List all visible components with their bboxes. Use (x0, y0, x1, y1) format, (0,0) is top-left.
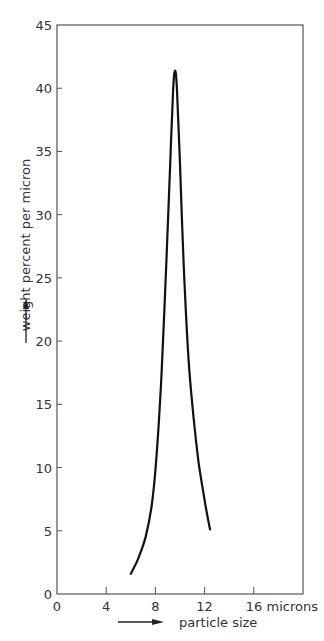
y-tick-label: 45 (35, 18, 52, 33)
y-tick-label: 0 (44, 587, 52, 602)
y-tick-label: 20 (35, 334, 52, 349)
x-tick-label: 12 (196, 599, 213, 614)
x-tick-label: 16 microns (246, 599, 318, 614)
x-arrow-icon (118, 619, 164, 625)
y-axis-ticks: 051015202530354045 (35, 18, 62, 602)
plot-frame (57, 25, 303, 594)
x-tick-label: 4 (102, 599, 110, 614)
y-tick-label: 25 (35, 271, 52, 286)
x-axis-ticks: 0481216 microns (53, 587, 318, 614)
distribution-curve (131, 71, 210, 574)
x-axis-label: particle size (179, 615, 257, 630)
x-tick-label: 0 (53, 599, 61, 614)
y-tick-label: 10 (35, 461, 52, 476)
y-tick-label: 35 (35, 144, 52, 159)
particle-size-chart: 051015202530354045 0481216 microns weigh… (0, 0, 324, 641)
y-tick-label: 40 (35, 81, 52, 96)
y-tick-label: 30 (35, 208, 52, 223)
y-tick-label: 5 (44, 524, 52, 539)
y-tick-label: 15 (35, 397, 52, 412)
x-axis-label-group: particle size (118, 615, 257, 630)
x-tick-label: 8 (151, 599, 159, 614)
y-axis-label-group: weight percent per micron (18, 159, 33, 343)
